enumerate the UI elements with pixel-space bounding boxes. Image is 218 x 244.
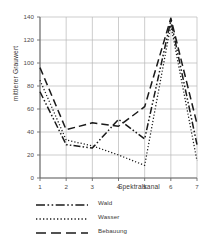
legend-label-wald: Wald [98, 199, 112, 206]
legend-swatch-wald [36, 203, 88, 207]
legend-item-bebauung: Bebauung [36, 226, 156, 240]
legend-label-bebauung: Bebauung [98, 227, 127, 234]
gridlines [40, 17, 197, 178]
x-tick-label: 1 [30, 183, 50, 190]
legend-swatch-bebauung [36, 231, 88, 235]
legend-label-wasser: Wasser [98, 213, 119, 220]
x-axis-title: Spektralkanal [118, 183, 198, 190]
legend-swatch-wasser [36, 217, 88, 221]
x-tick-label: 2 [56, 183, 76, 190]
y-tick-label: 120 [6, 36, 34, 43]
y-tick-label: 60 [6, 105, 34, 112]
chart-figure: 020406080100120140 1234567 mittlerer Gra… [0, 0, 218, 244]
y-axis-title: mittlerer Grauwert [12, 34, 19, 114]
legend-item-wald: Wald [36, 198, 156, 212]
chart-legend: Wald Wasser Bebauung [36, 198, 156, 240]
axis-ticks [37, 17, 197, 181]
y-tick-label: 140 [6, 13, 34, 20]
legend-item-wasser: Wasser [36, 212, 156, 226]
y-tick-label: 0 [6, 174, 34, 181]
x-tick-label: 3 [82, 183, 102, 190]
y-tick-label: 80 [6, 82, 34, 89]
y-tick-label: 40 [6, 128, 34, 135]
y-tick-label: 20 [6, 151, 34, 158]
y-tick-label: 100 [6, 59, 34, 66]
